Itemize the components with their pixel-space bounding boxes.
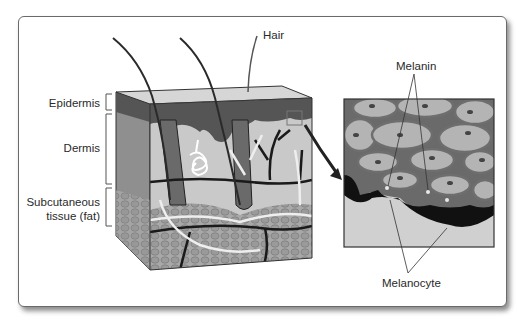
label-melanocyte: Melanocyte (382, 276, 441, 290)
label-melanin: Melanin (396, 59, 436, 73)
label-subcutaneous-line1: Subcutaneous (20, 195, 100, 209)
label-dermis: Dermis (30, 141, 100, 155)
label-subcutaneous-line2: tissue (fat) (20, 209, 100, 223)
label-epidermis: Epidermis (30, 96, 100, 110)
layer-brackets (106, 94, 112, 226)
skin-diagram (0, 0, 525, 322)
skin-block-left-face (116, 92, 150, 270)
melanocyte-inset (344, 95, 497, 247)
skin-block-front-face (150, 95, 315, 275)
label-hair: Hair (263, 28, 284, 42)
